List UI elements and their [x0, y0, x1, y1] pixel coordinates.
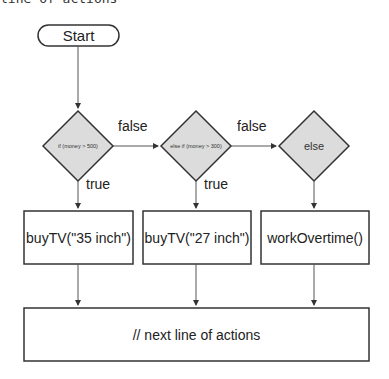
- true-label-2: true: [204, 176, 228, 192]
- start-label: Start: [38, 25, 119, 46]
- false-label-1: false: [118, 118, 148, 134]
- decision-3-label: else: [279, 136, 349, 156]
- true-label-1: true: [86, 176, 110, 192]
- action-1-label: buyTV("35 inch"): [24, 211, 133, 264]
- action-3-label: workOvertime(): [261, 211, 369, 264]
- false-label-2: false: [237, 118, 267, 134]
- decision-2-label: else if (money > 300): [161, 136, 231, 156]
- action-2-label: buyTV("27 inch"): [143, 211, 251, 264]
- decision-1-label: if (money > 500): [43, 136, 113, 156]
- end-label: // next line of actions: [24, 308, 369, 361]
